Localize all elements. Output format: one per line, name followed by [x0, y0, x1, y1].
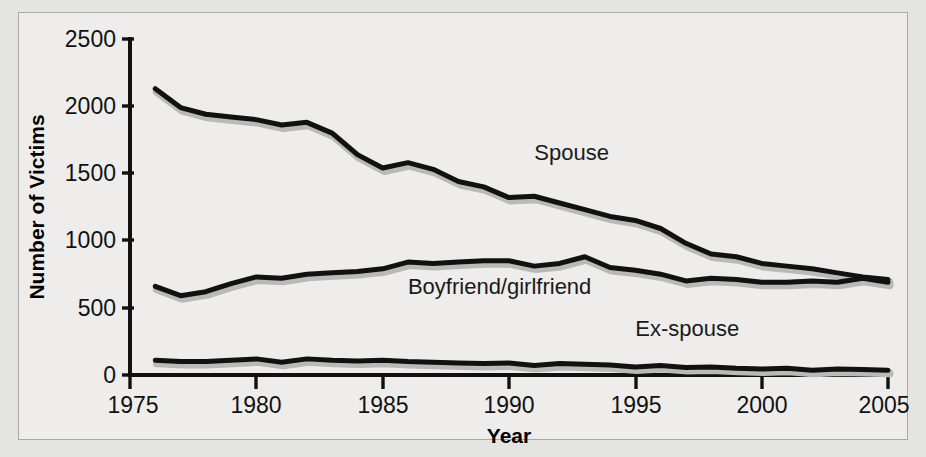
- x-tick-labels: 1975 1980 1985 1990 1995 2000 2005: [107, 392, 909, 418]
- y-tick-label: 1000: [65, 227, 116, 253]
- series-label-boyfriend-girlfriend: Boyfriend/girlfriend: [408, 274, 591, 299]
- series-line-spouse: [155, 89, 888, 280]
- x-tick-label: 2000: [736, 392, 787, 418]
- x-tick-label: 1985: [357, 392, 408, 418]
- y-tick-label: 2500: [65, 26, 116, 52]
- y-tick-label: 2000: [65, 93, 116, 119]
- x-axis-title: Year: [487, 424, 531, 447]
- axis-lines: [130, 39, 888, 375]
- x-tick-label: 1995: [610, 392, 661, 418]
- series-label-spouse: Spouse: [534, 140, 609, 165]
- x-axis-ticks: [130, 375, 888, 389]
- y-axis-title: Number of Victims: [25, 114, 48, 299]
- y-tick-label: 1500: [65, 160, 116, 186]
- x-tick-label: 1980: [230, 392, 281, 418]
- series-annotation-group: SpouseBoyfriend/girlfriendEx-spouse: [408, 140, 739, 341]
- data-series-group: [155, 89, 889, 374]
- x-tick-label: 1990: [483, 392, 534, 418]
- y-tick-labels: 2500 2000 1500 1000 500 0: [65, 26, 116, 388]
- y-tick-label: 0: [103, 362, 116, 388]
- series-label-ex-spouse: Ex-spouse: [635, 316, 739, 341]
- chart-figure: Number of Victims 2500 2000 1500 1000 50…: [0, 0, 926, 457]
- x-tick-label: 2005: [858, 392, 909, 418]
- line-chart-plot: Number of Victims 2500 2000 1500 1000 50…: [0, 0, 926, 457]
- y-tick-label: 500: [78, 295, 116, 321]
- x-tick-label: 1975: [107, 392, 158, 418]
